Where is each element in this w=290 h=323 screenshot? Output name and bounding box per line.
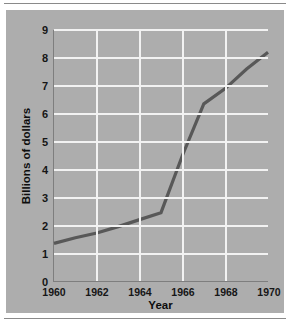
gridline-vertical: [139, 30, 141, 281]
gridline-horizontal: [54, 29, 268, 31]
gridline-vertical: [182, 30, 184, 281]
y-axis-tick-label: 4: [42, 165, 48, 176]
series-line: [54, 52, 268, 243]
x-axis-tick-label: 1962: [85, 287, 108, 298]
x-axis-tick-label: 1968: [214, 287, 237, 298]
y-axis-tick-label: 1: [42, 249, 48, 260]
bottom-rule: [4, 318, 286, 319]
y-axis-tick-label: 6: [42, 109, 48, 120]
y-axis-title: Billions of dollars: [18, 30, 34, 282]
y-axis-tick-label: 9: [42, 25, 48, 36]
gridline-vertical: [225, 30, 227, 281]
y-axis-tick-label: 7: [42, 81, 48, 92]
plot-area: 0123456789196019621964196619681970: [53, 30, 268, 282]
gridline-vertical: [96, 30, 98, 281]
x-axis-tick-label: 1966: [171, 287, 194, 298]
gridline-horizontal: [54, 253, 268, 255]
y-axis-title-text: Billions of dollars: [20, 108, 32, 204]
gridline-horizontal: [54, 225, 268, 227]
x-axis-tick-label: 1964: [128, 287, 151, 298]
x-axis-tick-label: 1960: [42, 287, 65, 298]
gridline-horizontal: [54, 85, 268, 87]
y-axis-tick-label: 2: [42, 221, 48, 232]
top-rule: [4, 3, 286, 4]
gridline-horizontal: [54, 197, 268, 199]
gridline-horizontal: [54, 57, 268, 59]
gridline-horizontal: [54, 113, 268, 115]
gridline-horizontal: [54, 169, 268, 171]
chart-figure: Billions of dollars Year 012345678919601…: [0, 0, 290, 323]
gridline-horizontal: [54, 141, 268, 143]
line-series: [54, 30, 268, 281]
x-axis-title: Year: [53, 299, 268, 311]
y-axis-tick-label: 3: [42, 193, 48, 204]
chart-canvas: Billions of dollars Year 012345678919601…: [6, 10, 284, 313]
y-axis-tick-label: 8: [42, 53, 48, 64]
y-axis-tick-label: 5: [42, 137, 48, 148]
x-axis-tick-label: 1970: [257, 287, 280, 298]
